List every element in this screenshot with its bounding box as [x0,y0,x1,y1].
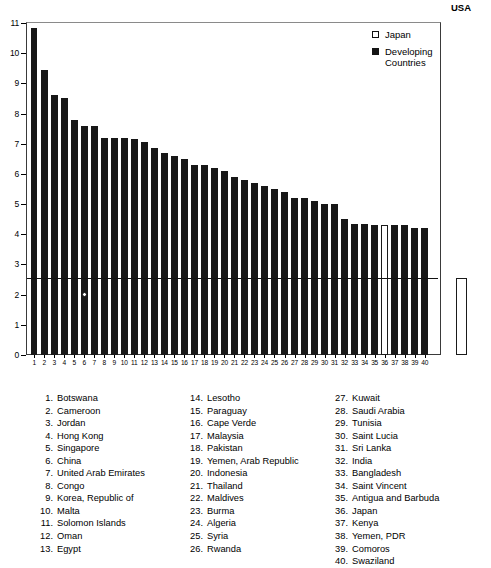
x-axis-tick-label: 24 [261,359,268,366]
country-key-name: United Arab Emirates [57,467,145,480]
country-key-number: 33. [328,467,348,480]
x-axis-tick-label: 4 [63,359,66,366]
y-axis-tick-label: 3 [14,260,19,269]
country-key-number: 11. [33,517,53,530]
open-circle-marker [82,292,87,297]
x-axis-tick [234,355,235,358]
x-axis-tick [174,355,175,358]
country-key-number: 6. [33,455,53,468]
bar [31,28,38,355]
country-key-name: Korea, Republic of [57,492,134,505]
country-key-number: 39. [328,543,348,556]
country-key-item: 34.Saint Vincent [328,480,478,493]
country-key-name: Oman [57,530,82,543]
country-key-name: Rwanda [207,543,241,556]
country-key-item: 19.Yemen, Arab Republic [183,455,328,468]
country-key-number: 4. [33,430,53,443]
reference-line [27,278,438,279]
country-key-name: Cape Verde [207,417,256,430]
x-axis-tick-label: 29 [311,359,318,366]
country-key-name: Congo [57,480,84,493]
x-axis-tick-label: 23 [251,359,258,366]
country-key-item: 4.Hong Kong [33,430,183,443]
x-axis-tick [104,355,105,358]
x-axis: 1234567891011121314151617181920212223242… [0,355,491,377]
country-key-number: 3. [33,417,53,430]
y-axis-tick [21,264,26,265]
country-key-name: Saudi Arabia [352,405,405,418]
country-key-name: Japan [352,505,377,518]
country-key-name: China [57,455,81,468]
x-axis-tick-label: 31 [331,359,338,366]
country-key-item: 25.Syria [183,530,328,543]
bar [61,98,68,355]
country-key-name: Indonesia [207,467,247,480]
bar [271,189,278,355]
country-key-item: 12.Oman [33,530,183,543]
y-axis-tick-label: 8 [14,109,19,118]
country-key-name: Tunisia [352,417,382,430]
x-axis-tick-label: 2 [42,359,45,366]
x-axis-tick [385,355,386,358]
country-key-number: 13. [33,543,53,556]
y-axis-tick [21,114,26,115]
x-axis-tick [375,355,376,358]
y-axis-tick-label: 10 [10,49,19,58]
country-key-item: 24.Algeria [183,517,328,530]
country-key-name: Yemen, PDR [352,530,405,543]
country-key-item: 30.Saint Lucia [328,430,478,443]
country-key-item: 6.China [33,455,183,468]
country-key-number: 24. [183,517,203,530]
bar [381,225,388,355]
country-key-number: 17. [183,430,203,443]
bar [241,180,248,355]
country-key-column-3: 27.Kuwait28.Saudi Arabia29.Tunisia30.Sai… [328,392,478,558]
country-key-number: 15. [183,405,203,418]
country-key-item: 22.Maldives [183,492,328,505]
country-key-item: 31.Sri Lanka [328,442,478,455]
x-axis-tick-label: 12 [141,359,148,366]
country-key-item: 32.India [328,455,478,468]
y-axis-tick-label: 1 [14,321,19,330]
country-key-name: Solomon Islands [57,517,126,530]
bar [141,142,148,355]
country-key-item: 8.Congo [33,480,183,493]
bar [331,204,338,355]
y-axis-tick [21,144,26,145]
country-key-name: Kuwait [352,392,380,405]
country-key-name: Saint Lucia [352,430,398,443]
legend-swatch-open-icon [372,31,379,38]
x-axis-tick-label: 37 [391,359,398,366]
x-axis-tick [335,355,336,358]
country-key-number: 37. [328,517,348,530]
bar [221,171,228,355]
legend-swatch-filled-icon [372,48,379,55]
x-axis-tick [114,355,115,358]
country-key-number: 26. [183,543,203,556]
x-axis-tick-label: 25 [271,359,278,366]
x-axis-tick-label: 9 [113,359,116,366]
country-key-name: Egypt [57,543,81,556]
x-axis-tick [204,355,205,358]
country-key-name: Algeria [207,517,236,530]
country-key-item: 20.Indonesia [183,467,328,480]
x-axis-tick-label: 1 [32,359,35,366]
country-key-name: Hong Kong [57,430,104,443]
legend-item-developing-countries: Developing Countries [372,46,472,69]
country-key-item: 36.Japan [328,505,478,518]
country-key-item: 40.Swaziland [328,555,478,568]
x-axis-tick [54,355,55,358]
x-axis-tick-label: 32 [341,359,348,366]
x-axis-tick-label: 7 [93,359,96,366]
country-key-item: 37.Kenya [328,517,478,530]
country-key-name: Malta [57,505,80,518]
country-key-name: Saint Vincent [352,480,407,493]
country-key-item: 3.Jordan [33,417,183,430]
x-axis-tick-label: 35 [371,359,378,366]
country-key-number: 23. [183,505,203,518]
x-axis-tick [325,355,326,358]
x-axis-tick-label: 28 [301,359,308,366]
x-axis-tick [244,355,245,358]
country-key-item: 23.Burma [183,505,328,518]
bar [121,138,128,355]
